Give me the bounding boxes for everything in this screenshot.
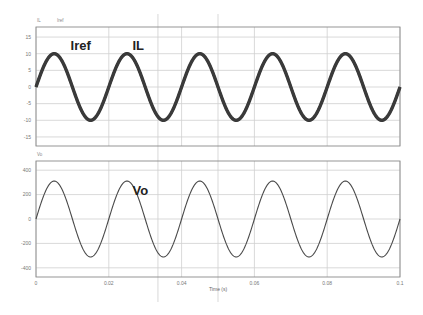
y-tick-label: -400 (21, 265, 31, 271)
annotation-vo: Vo (132, 183, 148, 198)
y-tick-label: 400 (23, 167, 32, 173)
x-tick-label: 0 (35, 280, 38, 286)
y-tick-label: 10 (25, 51, 31, 57)
x-axis-title: Time (s) (209, 286, 227, 292)
y-tick-label: -10 (24, 117, 31, 123)
x-tick-label: 0.1 (397, 280, 404, 286)
y-tick-label: -5 (27, 100, 32, 106)
legend-il: IL (37, 18, 41, 23)
top-y-ticks: 151050-5-10-15 (24, 34, 31, 140)
x-tick-label: 0.08 (322, 280, 332, 286)
legend-vo: Vo (37, 152, 43, 157)
y-tick-label: 200 (23, 191, 32, 197)
cursor-lines (158, 14, 218, 302)
x-tick-label: 0.04 (177, 280, 187, 286)
y-tick-label: 15 (25, 34, 31, 40)
annotation-iref: Iref (71, 38, 92, 53)
x-tick-label: 0.02 (104, 280, 114, 286)
bottom-y-ticks: 4002000-200-400 (21, 167, 31, 271)
y-tick-label: 5 (28, 67, 31, 73)
annotation-il: IL (132, 38, 144, 53)
y-tick-label: -200 (21, 240, 31, 246)
x-tick-label: 0.06 (250, 280, 260, 286)
top-panel: 151050-5-10-15 IL Iref Iref IL (24, 18, 400, 146)
y-tick-label: -15 (24, 134, 31, 140)
legend-iref: Iref (57, 18, 64, 23)
y-tick-label: 0 (28, 216, 31, 222)
waveform-chart: 151050-5-10-15 IL Iref Iref IL 4002000-2… (0, 0, 423, 315)
bottom-panel: 4002000-200-400 Vo Vo 00.020.040.060.080… (21, 152, 404, 292)
y-tick-label: 0 (28, 84, 31, 90)
